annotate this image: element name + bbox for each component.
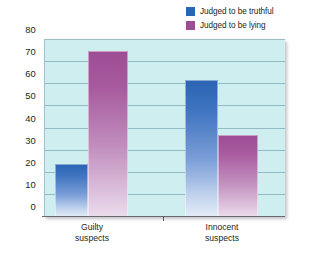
gridline	[44, 105, 285, 106]
x-axis-category-label: Guiltysuspects	[52, 222, 132, 244]
y-axis-line	[44, 40, 45, 217]
y-axis-tick-label: 20	[25, 158, 36, 168]
y-axis-tick-label: 70	[25, 47, 36, 57]
chart-bar	[218, 135, 258, 217]
chart-bar	[88, 51, 128, 217]
y-axis-tick-label: 30	[25, 136, 36, 146]
y-axis-tick-label: 0	[31, 202, 36, 212]
y-axis-tick-label: 10	[25, 180, 36, 190]
legend-swatch-truthful	[186, 7, 195, 16]
chart-plot-wrapper: 80706050403020100	[44, 40, 285, 217]
legend-label-truthful: Judged to be truthful	[200, 7, 274, 16]
x-axis-category-label-line: Innocent	[182, 222, 262, 233]
chart-legend: Judged to be truthful Judged to be lying	[186, 5, 298, 33]
y-axis-tick-label: 50	[25, 91, 36, 101]
chart-plot-area	[44, 40, 285, 217]
legend-swatch-lying	[186, 21, 195, 30]
x-axis-category-labels: GuiltysuspectsInnocentsuspects	[44, 222, 285, 252]
chart-bar-outline	[88, 51, 128, 217]
chart-bar-outline	[218, 135, 258, 217]
y-axis-tick-label: 40	[25, 114, 36, 124]
gridline	[44, 39, 285, 40]
x-axis-category-label-line: suspects	[182, 233, 262, 244]
gridline	[44, 83, 285, 84]
x-axis-center-tick	[163, 216, 164, 221]
chart-bar	[55, 164, 88, 217]
chart-bar-outline	[185, 80, 218, 217]
y-axis-tick-label: 60	[25, 69, 36, 79]
legend-item: Judged to be lying	[186, 19, 298, 32]
legend-label-lying: Judged to be lying	[200, 21, 266, 30]
x-axis-category-label-line: Guilty	[52, 222, 132, 233]
gridline	[44, 128, 285, 129]
legend-item: Judged to be truthful	[186, 5, 298, 18]
y-axis-tick-label: 80	[25, 25, 36, 35]
x-axis-category-label: Innocentsuspects	[182, 222, 262, 244]
chart-bar	[185, 80, 218, 217]
chart-bar-outline	[55, 164, 88, 217]
gridline	[44, 61, 285, 62]
x-axis-category-label-line: suspects	[52, 233, 132, 244]
